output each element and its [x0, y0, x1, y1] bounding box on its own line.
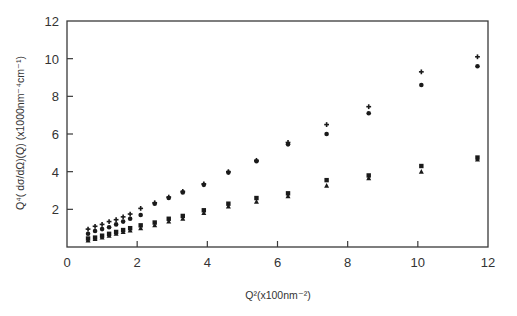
data-point-square: [419, 164, 423, 168]
data-point-plus: [475, 54, 480, 59]
x-tick-label: 8: [344, 255, 351, 270]
x-tick-label: 2: [134, 255, 141, 270]
x-tick-label: 12: [481, 255, 495, 270]
data-point-triangle: [419, 169, 424, 174]
series-triangle: [86, 157, 480, 243]
data-point-plus: [121, 214, 126, 219]
data-point-circle: [419, 83, 424, 88]
x-tick-label: 4: [204, 255, 211, 270]
data-point-plus: [324, 122, 329, 127]
data-point-triangle: [324, 183, 329, 188]
y-tick-label: 10: [45, 52, 59, 67]
y-tick-label: 8: [52, 89, 59, 104]
x-tick-label: 6: [274, 255, 281, 270]
data-point-plus: [138, 206, 143, 211]
data-point-circle: [226, 170, 231, 175]
y-tick-label: 12: [45, 14, 59, 29]
series-square: [86, 155, 480, 240]
data-point-circle: [114, 222, 119, 227]
y-axis-ticks: 24681012: [45, 14, 73, 217]
data-point-plus: [100, 222, 105, 227]
data-point-circle: [100, 227, 105, 232]
data-point-circle: [202, 183, 207, 188]
data-point-circle: [366, 111, 371, 116]
data-point-plus: [114, 217, 119, 222]
data-point-circle: [254, 159, 259, 164]
data-point-plus: [128, 212, 133, 217]
y-tick-label: 2: [52, 202, 59, 217]
data-point-circle: [107, 225, 112, 230]
data-point-plus: [366, 104, 371, 109]
y-tick-label: 6: [52, 127, 59, 142]
data-point-circle: [152, 201, 157, 206]
data-point-circle: [166, 196, 171, 201]
data-point-circle: [93, 229, 98, 234]
series-plus: [86, 54, 480, 231]
data-point-circle: [86, 232, 91, 237]
data-point-plus: [107, 219, 112, 224]
series-circle: [86, 64, 480, 236]
data-point-square: [324, 178, 328, 182]
data-point-circle: [138, 213, 143, 218]
data-point-circle: [324, 132, 329, 137]
x-tick-label: 0: [63, 255, 70, 270]
data-points: [86, 54, 480, 242]
data-point-plus: [86, 227, 91, 232]
data-point-circle: [180, 190, 185, 195]
data-point-circle: [128, 216, 133, 221]
x-axis-label: Q²(x100nm⁻²): [245, 289, 311, 301]
y-tick-label: 4: [52, 165, 59, 180]
data-point-circle: [121, 219, 126, 224]
x-axis-ticks: 024681012: [63, 241, 495, 270]
data-point-circle: [286, 142, 291, 147]
x-tick-label: 10: [411, 255, 425, 270]
y-axis-label: Q⁴( dσ/dΩ)(Q) (x1000nm⁻⁴cm⁻¹): [14, 56, 26, 210]
data-point-plus: [93, 224, 98, 229]
scatter-chart: 024681012 24681012 Q²(x100nm⁻²) Q⁴( dσ/d…: [0, 0, 517, 316]
data-point-plus: [419, 69, 424, 74]
data-point-circle: [475, 64, 480, 69]
